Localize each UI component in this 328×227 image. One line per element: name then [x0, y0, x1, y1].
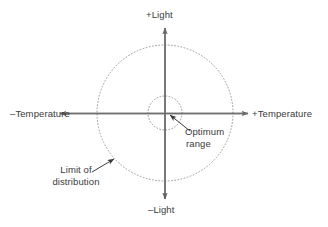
axis-label-positive-light: +Light — [146, 9, 173, 21]
axis-label-negative-temperature: –Temperature — [10, 108, 70, 120]
axis-label-negative-light: –Light — [148, 204, 174, 216]
annotation-limit-of-distribution: Limit of distribution — [40, 164, 112, 187]
ecology-tolerance-diagram: +Light –Light –Temperature +Temperature … — [0, 0, 328, 227]
annotation-optimum-range-line2: range — [185, 138, 241, 150]
annotation-optimum-range: Optimum range — [185, 126, 241, 149]
annotation-optimum-range-line1: Optimum — [185, 126, 224, 137]
annotation-limit-line2: distribution — [52, 176, 99, 187]
axis-label-positive-temperature: +Temperature — [252, 108, 312, 120]
annotation-limit-line1: Limit of — [60, 164, 91, 175]
